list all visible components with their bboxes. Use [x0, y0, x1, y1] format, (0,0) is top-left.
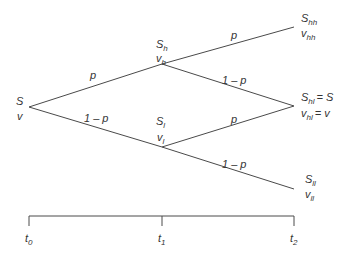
- node-root-price: S: [16, 95, 24, 107]
- node-hh-value: vhh: [301, 27, 316, 42]
- node-l-value: vl: [157, 131, 165, 146]
- node-hl-price: Shl= S: [301, 91, 334, 106]
- prob-root-l: 1 – p: [84, 112, 108, 124]
- prob-h-hh: p: [230, 29, 237, 41]
- prob-h-hl: 1 – p: [222, 74, 246, 86]
- timeline-label-t1: t1: [158, 232, 166, 247]
- node-h-price: Sh: [156, 38, 168, 53]
- node-h-value: vh: [156, 52, 167, 67]
- node-hl-value: vhl= v: [301, 107, 331, 122]
- node-ll-price: Sll: [305, 173, 316, 188]
- node-ll-value: vll: [305, 188, 314, 203]
- binomial-tree-diagram: p 1 – p p 1 – p p 1 – p S v Sh vh Sl vl …: [0, 0, 343, 254]
- prob-root-h: p: [89, 69, 96, 81]
- timeline-label-t2: t2: [290, 232, 298, 247]
- prob-l-ll: 1 – p: [222, 158, 246, 170]
- node-hh-price: Shh: [301, 12, 318, 27]
- node-root-value: v: [17, 110, 24, 122]
- edge-h-hh: [162, 27, 294, 64]
- edge-l-hl: [162, 106, 294, 147]
- prob-l-hl: p: [230, 113, 237, 125]
- timeline-label-t0: t0: [25, 232, 33, 247]
- node-l-price: Sl: [156, 115, 165, 130]
